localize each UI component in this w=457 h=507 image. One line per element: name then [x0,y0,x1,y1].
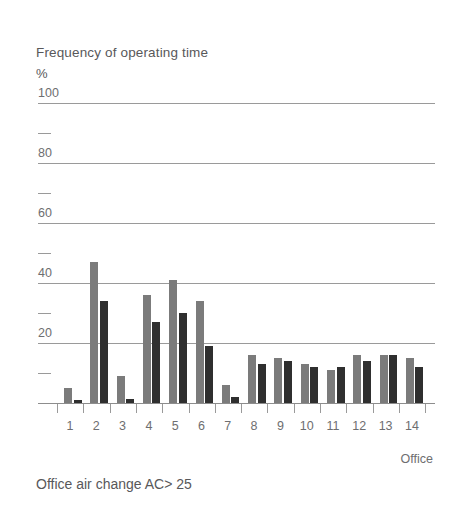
x-axis-tick-11 [346,404,347,413]
x-axis-label-12: 12 [348,419,370,433]
bar-office-1-series-light [64,388,72,403]
x-axis-label-4: 4 [138,419,160,433]
x-axis-baseline [38,403,435,404]
x-axis-label-5: 5 [164,419,186,433]
x-axis-tick-8 [267,404,268,413]
bar-office-6-series-light [196,301,204,403]
bar-office-13-series-light [380,355,388,403]
x-axis-label-2: 2 [85,419,107,433]
bar-office-11-series-dark [337,367,345,403]
bar-office-10-series-light [301,364,309,403]
x-axis-tick-6 [215,404,216,413]
bar-office-5-series-dark [179,313,187,403]
bar-office-4-series-light [143,295,151,403]
x-axis-tick-3 [136,404,137,413]
bar-office-12-series-light [353,355,361,403]
y-axis-title: Frequency of operating time [36,45,208,60]
bar-office-11-series-light [327,370,335,403]
x-axis-label-7: 7 [217,419,239,433]
x-axis-label-14: 14 [401,419,423,433]
x-axis-tick-12 [373,404,374,413]
x-axis-tick-2 [110,404,111,413]
x-axis-tick-13 [399,404,400,413]
x-axis-tick-9 [294,404,295,413]
bar-office-4-series-dark [152,322,160,403]
x-axis-label-6: 6 [191,419,213,433]
chart-caption: Office air change AC> 25 [36,476,192,492]
x-axis-tick-14 [425,404,426,413]
x-axis-label-8: 8 [243,419,265,433]
x-axis-tick-4 [162,404,163,413]
bar-office-13-series-dark [389,355,397,403]
x-axis-label-9: 9 [269,419,291,433]
bar-office-10-series-dark [310,367,318,403]
x-axis-label-11: 11 [322,419,344,433]
bar-office-5-series-light [169,280,177,403]
x-axis-tick-10 [320,404,321,413]
x-axis-tick-5 [189,404,190,413]
bar-office-14-series-light [406,358,414,403]
bar-office-7-series-light [222,385,230,403]
x-axis-label-13: 13 [375,419,397,433]
bar-office-9-series-dark [284,361,292,403]
chart-figure: Frequency of operating time % 1008060402… [0,0,457,507]
y-axis-unit-label: % [36,66,48,81]
x-axis-label-3: 3 [112,419,134,433]
bar-office-8-series-light [248,355,256,403]
y-axis-label-100: 100 [38,86,59,100]
plot-area: 10080604020 [38,103,435,403]
x-axis-title: Office [401,452,433,466]
bar-office-3-series-light [117,376,125,403]
bar-office-9-series-light [274,358,282,403]
bars-group [38,103,435,403]
bar-office-2-series-dark [100,301,108,403]
x-axis-label-1: 1 [59,419,81,433]
bar-office-8-series-dark [258,364,266,403]
x-axis-tick-0 [57,404,58,413]
bar-office-12-series-dark [363,361,371,403]
x-axis-label-10: 10 [296,419,318,433]
x-axis-tick-7 [241,404,242,413]
bar-office-6-series-dark [205,346,213,403]
x-axis-tick-1 [83,404,84,413]
bar-office-14-series-dark [415,367,423,403]
bar-office-2-series-light [90,262,98,403]
